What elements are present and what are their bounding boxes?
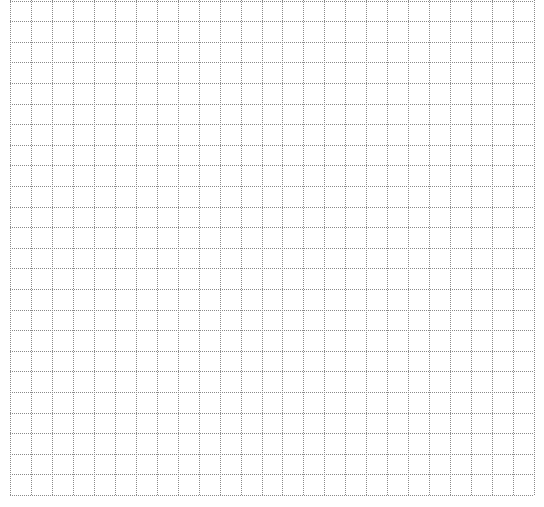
graph-paper-grid — [0, 0, 544, 507]
